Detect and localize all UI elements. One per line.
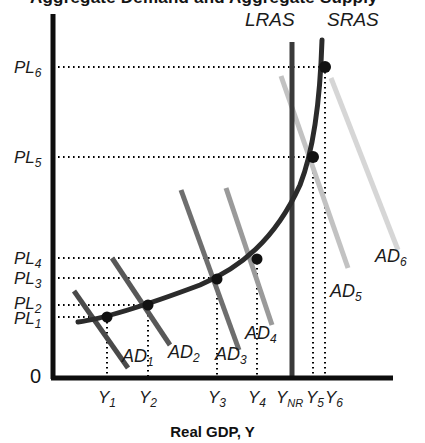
x-tick-ynr: YNR xyxy=(276,388,303,409)
ad6-label: AD6 xyxy=(374,246,407,269)
x-tick-y6: Y6 xyxy=(325,388,343,410)
ad1-label: AD1 xyxy=(121,346,154,369)
y-tick-pl4: PL4 xyxy=(14,249,42,271)
x-axis-caption: Real GDP, Y xyxy=(0,423,425,440)
equilibrium-dot-e1 xyxy=(102,312,113,323)
y-tick-pl3: PL3 xyxy=(14,269,42,291)
x-tick-y2: Y2 xyxy=(139,388,157,410)
ad3-label: AD3 xyxy=(214,344,247,367)
ad1-line xyxy=(74,291,128,368)
ad5-label: AD5 xyxy=(329,281,362,304)
x-tick-y5: Y5 xyxy=(306,388,324,410)
ad-curves xyxy=(74,76,398,368)
equilibrium-dot-e2 xyxy=(143,300,154,311)
equilibrium-dot-e5 xyxy=(307,151,319,163)
y-tick-pl6: PL6 xyxy=(14,58,42,80)
lras-label: LRAS xyxy=(245,9,295,30)
x-tick-labels: Y1 Y2 Y3 Y4 YNR Y5 Y6 xyxy=(98,388,343,410)
x-tick-y3: Y3 xyxy=(208,388,226,410)
x-tick-y1: Y1 xyxy=(98,388,116,410)
ad6-line xyxy=(331,78,398,250)
chart-canvas: PL6 PL5 PL4 PL3 PL2 PL1 0 Y1 Y2 Y3 Y4 YN… xyxy=(0,0,425,443)
ad2-label: AD2 xyxy=(167,342,200,365)
origin-label: 0 xyxy=(30,365,41,387)
equilibrium-dot-e6 xyxy=(319,61,331,73)
adas-diagram: Aggregate Demand and Aggregate Supply xyxy=(0,0,425,443)
sras-label: SRAS xyxy=(327,9,379,30)
y-tick-labels: PL6 PL5 PL4 PL3 PL2 PL1 xyxy=(14,58,42,331)
equilibrium-dot-e4 xyxy=(252,254,263,265)
ad4-label: AD4 xyxy=(244,323,277,346)
guide-lines xyxy=(53,67,325,378)
y-tick-pl5: PL5 xyxy=(14,148,42,170)
equilibrium-dot-e3 xyxy=(212,274,223,285)
x-tick-y4: Y4 xyxy=(248,388,266,410)
